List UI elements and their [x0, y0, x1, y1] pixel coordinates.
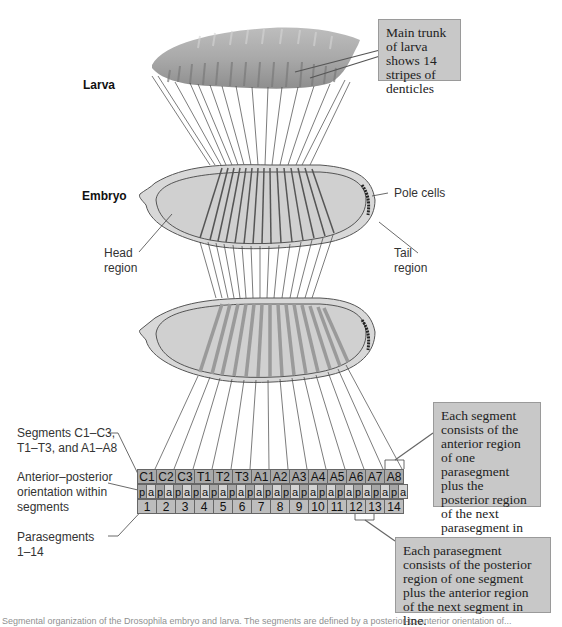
head-region-label: Head region: [104, 246, 137, 276]
parasegment-cell: 5: [213, 499, 233, 514]
parasegments-legend-label: Parasegments 1–14: [17, 530, 94, 560]
head-region-label-line1: Head: [104, 246, 137, 261]
parasegment-cell: 7: [251, 499, 271, 514]
figure-caption: Segmental organization of the Drosophila…: [2, 616, 512, 626]
tail-region-label-line2: region: [394, 261, 427, 276]
tail-region-label-line1: Tail: [394, 246, 427, 261]
parasegment-cell: 14: [384, 499, 404, 514]
embryo-striped: [139, 165, 418, 253]
parasegment-cell: 1: [137, 499, 157, 514]
parasegment-definition-callout: Each parasegment consists of the posteri…: [395, 537, 551, 613]
parasegment-cell: 9: [289, 499, 309, 514]
segment-cell: C2: [156, 469, 176, 484]
orientation-legend-line3: segments: [17, 500, 112, 515]
segment-cell: A3: [289, 469, 309, 484]
parasegment-cell: 4: [194, 499, 214, 514]
segment-cell: A5: [327, 469, 347, 484]
embryo-label: Embryo: [82, 189, 127, 203]
pole-cells-label: Pole cells: [394, 186, 445, 201]
parasegment-cell: 6: [232, 499, 252, 514]
orientation-row: pa pa pa pa pa pa pa pa pa pa pa pa pa p…: [138, 484, 408, 499]
larva-label: Larva: [83, 78, 115, 92]
segment-cell: C1: [137, 469, 157, 484]
segment-grid: C1 C2 C3 T1 T2 T3 A1 A2 A3 A4 A5 A6 A7 A…: [138, 469, 408, 514]
orientation-legend-line2: orientation within: [17, 485, 112, 500]
larva-illustration: [152, 28, 380, 89]
parasegment-cell: 3: [175, 499, 195, 514]
segment-cell: C3: [175, 469, 195, 484]
parasegment-cell: 13: [365, 499, 385, 514]
segment-definition-callout: Each segment consists of the anterior re…: [433, 402, 541, 507]
parasegment-cell: 8: [270, 499, 290, 514]
parasegments-legend-line2: 1–14: [17, 545, 94, 560]
parasegment-cell: 2: [156, 499, 176, 514]
parasegments-legend-line1: Parasegments: [17, 530, 94, 545]
tail-region-label: Tail region: [394, 246, 427, 276]
segment-cell: A7: [365, 469, 385, 484]
parasegments-row: 1 2 3 4 5 6 7 8 9 10 11 12 13 14: [138, 499, 408, 514]
segment-cell: T2: [213, 469, 233, 484]
segment-cell: A1: [251, 469, 271, 484]
parasegment-cell: 12: [346, 499, 366, 514]
segment-cell: T1: [194, 469, 214, 484]
segment-cell: A4: [308, 469, 328, 484]
segments-legend-label: Segments C1–C3, T1–T3, and A1–A8: [17, 426, 117, 456]
anterior-cell: a: [398, 484, 408, 499]
parasegment-cell: 10: [308, 499, 328, 514]
segments-legend-line1: Segments C1–C3,: [17, 426, 117, 441]
embryo-parasegment-stripes: [139, 298, 375, 382]
parasegment-cell: 11: [327, 499, 347, 514]
segment-cell: A6: [346, 469, 366, 484]
larva-embryo-lines: [152, 76, 350, 165]
larva-callout: Main trunk of larva shows 14 stripes of …: [378, 19, 461, 81]
segments-row: C1 C2 C3 T1 T2 T3 A1 A2 A3 A4 A5 A6 A7 A…: [138, 469, 408, 484]
segment-cell: A8: [384, 469, 404, 484]
head-region-label-line2: region: [104, 261, 137, 276]
orientation-legend-line1: Anterior–posterior: [17, 470, 112, 485]
orientation-legend-label: Anterior–posterior orientation within se…: [17, 470, 112, 515]
segment-cell: T3: [232, 469, 252, 484]
segment-cell: A2: [270, 469, 290, 484]
segments-legend-line2: T1–T3, and A1–A8: [17, 441, 117, 456]
